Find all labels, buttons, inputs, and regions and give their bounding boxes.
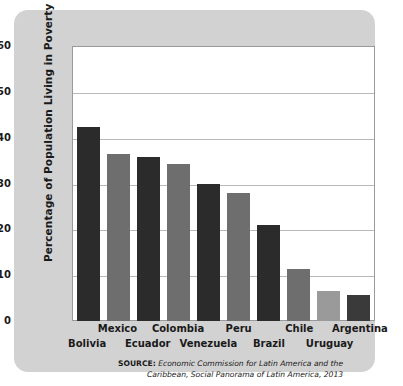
bar	[257, 225, 280, 321]
bar	[77, 127, 100, 321]
bar	[317, 291, 340, 321]
y-axis-title: Percentage of Population Living in Pover…	[42, 22, 54, 262]
x-tick-label: Argentina	[332, 323, 388, 334]
x-tick-label: Uruguay	[306, 338, 353, 349]
source-label: SOURCE:	[118, 359, 156, 368]
bar	[227, 193, 250, 321]
chart-card: 6050403020100 Percentage of Population L…	[14, 10, 375, 372]
x-tick-label: Venezuela	[179, 338, 237, 349]
bar	[287, 269, 310, 321]
y-tick-label: 30	[0, 179, 11, 189]
bar	[167, 164, 190, 321]
x-tick-label: Peru	[226, 323, 252, 334]
source-note: SOURCE: Economic Commission for Latin Am…	[118, 358, 374, 380]
y-tick-label: 50	[0, 87, 11, 97]
bar	[197, 184, 220, 321]
bar	[107, 154, 130, 321]
y-tick-label: 20	[0, 224, 11, 234]
bar-series	[73, 47, 374, 321]
source-line-1: Economic Commission for Latin America an…	[158, 359, 343, 368]
x-tick-label: Brazil	[253, 338, 285, 349]
x-tick-label: Chile	[285, 323, 313, 334]
x-tick-label: Mexico	[98, 323, 137, 334]
source-line-2: Caribbean, Social Panorama of Latin Amer…	[118, 369, 374, 380]
y-tick-label: 0	[0, 316, 11, 326]
y-tick-label: 60	[0, 41, 11, 51]
x-axis-tick-labels: BoliviaMexicoEcuadorColombiaVenezuelaPer…	[72, 322, 375, 356]
bar	[347, 295, 370, 321]
x-tick-label: Bolivia	[68, 338, 106, 349]
x-tick-label: Ecuador	[125, 338, 171, 349]
y-tick-label: 40	[0, 133, 11, 143]
y-tick-label: 10	[0, 270, 11, 280]
x-tick-label: Colombia	[152, 323, 204, 334]
bar	[137, 157, 160, 321]
